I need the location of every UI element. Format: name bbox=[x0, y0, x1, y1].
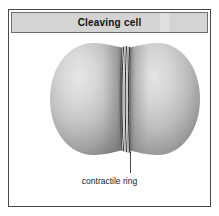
left-daughter-lobe bbox=[50, 43, 122, 155]
figure-title-bar: Cleaving cell bbox=[11, 12, 208, 33]
figure-title: Cleaving cell bbox=[78, 18, 142, 28]
contractile-ring-label: contractile ring bbox=[11, 177, 208, 186]
illustration-area: contractile ring bbox=[11, 34, 208, 204]
title-bar-sheen bbox=[160, 13, 169, 32]
figure-panel: Cleaving cell bbox=[8, 9, 211, 207]
right-daughter-lobe bbox=[129, 43, 200, 155]
